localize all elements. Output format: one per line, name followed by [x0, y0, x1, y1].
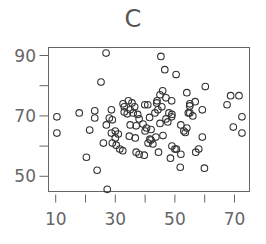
- data-point: [103, 50, 110, 57]
- data-point: [224, 101, 231, 108]
- data-point: [177, 164, 184, 171]
- data-point: [161, 66, 168, 73]
- data-point: [83, 154, 90, 161]
- y-tick-label: 50: [14, 166, 36, 186]
- scatter-plot: 10305070 507090: [0, 0, 266, 244]
- x-axis: 10305070: [45, 195, 245, 230]
- data-point: [91, 115, 98, 122]
- data-point: [86, 127, 93, 134]
- data-point: [201, 165, 208, 172]
- x-tick-label: 50: [164, 209, 186, 229]
- data-point: [230, 124, 237, 131]
- data-point: [157, 120, 164, 127]
- data-point: [109, 140, 116, 147]
- x-tick-label: 70: [224, 209, 246, 229]
- plot-frame: [49, 48, 250, 192]
- data-point: [173, 71, 180, 78]
- data-point: [167, 155, 174, 162]
- data-point: [76, 110, 83, 117]
- data-points: [54, 50, 246, 193]
- data-point: [202, 83, 209, 90]
- data-point: [158, 53, 165, 60]
- y-axis: 507090: [14, 46, 48, 187]
- data-point: [94, 167, 101, 174]
- data-point: [199, 134, 206, 141]
- data-point: [113, 142, 120, 149]
- data-point: [54, 130, 61, 137]
- data-point: [182, 129, 189, 136]
- data-point: [239, 114, 246, 121]
- data-point: [100, 140, 107, 147]
- data-point: [103, 122, 110, 129]
- data-point: [160, 132, 167, 139]
- data-point: [153, 134, 160, 141]
- data-point: [227, 92, 234, 99]
- data-point: [148, 126, 155, 133]
- y-tick-label: 70: [14, 106, 36, 126]
- data-point: [184, 89, 191, 96]
- data-point: [98, 79, 105, 86]
- data-point: [239, 130, 246, 137]
- data-point: [236, 92, 243, 99]
- x-tick-label: 30: [104, 209, 126, 229]
- data-point: [134, 111, 141, 118]
- data-point: [54, 114, 61, 121]
- data-point: [199, 107, 206, 114]
- data-point: [108, 107, 115, 114]
- y-tick-label: 90: [14, 46, 36, 66]
- data-point: [136, 116, 143, 123]
- data-point: [146, 114, 153, 121]
- data-point: [155, 149, 162, 156]
- data-point: [91, 107, 98, 114]
- data-point: [132, 135, 139, 142]
- x-tick-label: 10: [45, 209, 67, 229]
